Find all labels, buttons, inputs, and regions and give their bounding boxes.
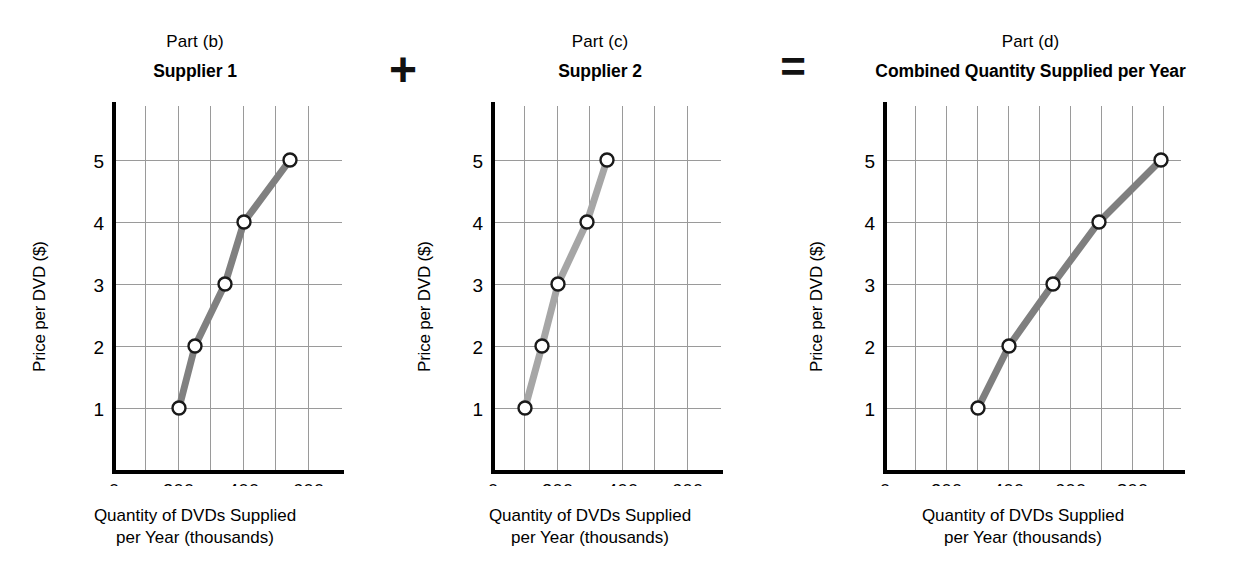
plot-area-combined: 1 2 3 4 5 0 200 400 600 800 — [863, 96, 1191, 486]
x-tick-600: 600 — [672, 480, 704, 486]
chart-title-combined: Combined Quantity Supplied per Year — [805, 61, 1256, 82]
y-tick-3: 3 — [864, 275, 875, 296]
y-tick-labels: 1 2 3 4 5 — [472, 151, 483, 420]
y-axis-title-b: Price per DVD ($) — [30, 241, 50, 372]
y-tick-2: 2 — [864, 337, 875, 358]
chart-panel-supplier-2: Part (c) Supplier 2 Price per DVD ($) — [415, 0, 785, 580]
y-tick-labels: 1 2 3 4 5 — [864, 151, 875, 420]
x-tick-labels: 0 200 400 600 — [109, 480, 325, 486]
x-tick-800: 800 — [1117, 480, 1149, 486]
plot-area-supplier-2: 1 2 3 4 5 0 200 400 600 — [471, 96, 731, 486]
part-label-b: Part (b) — [0, 32, 390, 52]
x-tick-400: 400 — [228, 480, 260, 486]
x-axis-title-c-line2: per Year (thousands) — [405, 527, 775, 549]
x-tick-0: 0 — [488, 480, 499, 486]
y-tick-labels: 1 2 3 4 5 — [93, 151, 104, 420]
x-axis-title-d: Quantity of DVDs Supplied per Year (thou… — [823, 505, 1223, 549]
x-tick-0: 0 — [880, 480, 891, 486]
part-label-d: Part (d) — [805, 32, 1256, 52]
chart-title-supplier-1: Supplier 1 — [0, 61, 390, 82]
plot-svg-supplier-1: 1 2 3 4 5 0 200 400 600 — [92, 96, 352, 486]
x-axis-title-b-line2: per Year (thousands) — [10, 527, 380, 549]
part-label-c: Part (c) — [415, 32, 785, 52]
y-tick-5: 5 — [472, 151, 483, 172]
y-tick-2: 2 — [93, 337, 104, 358]
y-tick-3: 3 — [93, 275, 104, 296]
y-axis-title-c: Price per DVD ($) — [415, 241, 435, 372]
y-tick-4: 4 — [472, 213, 483, 234]
x-axis-title-d-line1: Quantity of DVDs Supplied — [823, 505, 1223, 527]
y-axis-title-d: Price per DVD ($) — [807, 241, 827, 372]
x-tick-labels: 0 200 400 600 — [488, 480, 704, 486]
y-tick-5: 5 — [864, 151, 875, 172]
x-tick-200: 200 — [163, 480, 195, 486]
y-tick-1: 1 — [864, 399, 875, 420]
x-tick-0: 0 — [109, 480, 120, 486]
chart-title-supplier-2: Supplier 2 — [415, 61, 785, 82]
x-axis-title-c-line1: Quantity of DVDs Supplied — [405, 505, 775, 527]
chart-panel-combined: Part (d) Combined Quantity Supplied per … — [805, 0, 1256, 580]
x-tick-200: 200 — [542, 480, 574, 486]
horizontal-gridlines — [884, 161, 1181, 409]
plot-area-supplier-1: 1 2 3 4 5 0 200 400 600 — [92, 96, 352, 486]
x-tick-600: 600 — [293, 480, 325, 486]
y-tick-2: 2 — [472, 337, 483, 358]
plot-svg-combined: 1 2 3 4 5 0 200 400 600 800 — [863, 96, 1191, 486]
figure-canvas: Part (b) Supplier 1 Price per DVD ($) — [0, 0, 1256, 580]
plot-svg-supplier-2: 1 2 3 4 5 0 200 400 600 — [471, 96, 731, 486]
x-tick-400: 400 — [993, 480, 1025, 486]
x-axis-title-d-line2: per Year (thousands) — [823, 527, 1223, 549]
x-tick-400: 400 — [607, 480, 639, 486]
x-axis-title-c: Quantity of DVDs Supplied per Year (thou… — [405, 505, 775, 549]
y-tick-1: 1 — [93, 399, 104, 420]
x-tick-600: 600 — [1055, 480, 1087, 486]
y-tick-4: 4 — [93, 213, 104, 234]
y-tick-1: 1 — [472, 399, 483, 420]
y-tick-5: 5 — [93, 151, 104, 172]
x-axis-title-b: Quantity of DVDs Supplied per Year (thou… — [10, 505, 380, 549]
y-tick-4: 4 — [864, 213, 875, 234]
y-tick-3: 3 — [472, 275, 483, 296]
chart-panel-supplier-1: Part (b) Supplier 1 Price per DVD ($) — [0, 0, 390, 580]
x-axis-title-b-line1: Quantity of DVDs Supplied — [10, 505, 380, 527]
horizontal-gridlines — [492, 161, 721, 409]
x-tick-200: 200 — [931, 480, 963, 486]
x-tick-labels: 0 200 400 600 800 — [880, 480, 1149, 486]
